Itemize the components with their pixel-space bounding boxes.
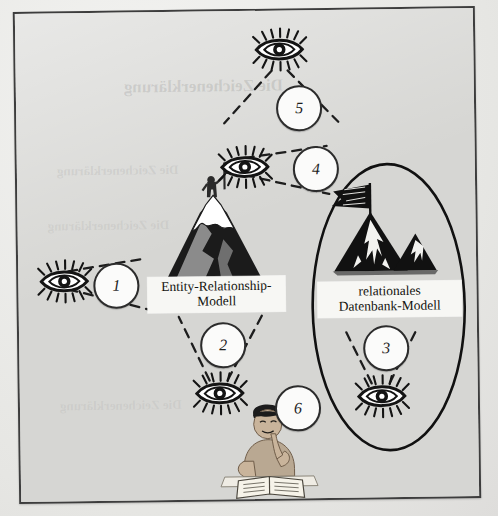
label-line-1: relationales [322,282,456,299]
label-line-2: Datenbank-Modell [323,298,457,315]
label-relationales-datenbank-modell: relationales Datenbank-Modell [317,280,461,318]
label-line-2: Modell [153,293,281,310]
eye-icon-1 [38,260,92,303]
marker-number: 6 [294,399,302,417]
mountain-with-climber [163,162,264,284]
marker-number: 5 [295,99,303,117]
diagram-artwork [15,8,483,506]
mountain-with-flag-lineart [331,182,438,275]
sightline-5-left [224,71,273,124]
eye-icon-5 [253,28,307,71]
marker-number: 3 [382,339,390,357]
figure-canvas: Die Zeichenerklärung Die Zeichenerklärun… [15,8,479,502]
figure-border: Die Zeichenerklärung Die Zeichenerklärun… [13,6,481,504]
marker-number: 4 [312,160,320,178]
eye-icon-4 [219,146,273,189]
eye-icon-3 [356,375,410,418]
label-entity-relationship-modell: Entity-Relationship- Modell [147,276,285,314]
marker-number: 1 [112,277,120,295]
marker-number: 2 [219,336,227,354]
label-line-1: Entity-Relationship- [152,278,280,295]
figure-frame: Die Zeichenerklärung Die Zeichenerklärun… [13,6,481,504]
eye-icon-2 [194,372,248,415]
